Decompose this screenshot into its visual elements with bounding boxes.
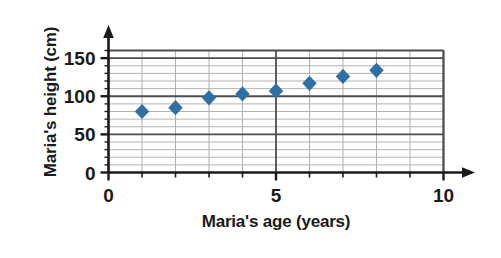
- data-point-marker: [168, 100, 182, 115]
- data-point-marker: [369, 63, 383, 78]
- data-point-marker: [202, 90, 216, 105]
- x-axis-line: [109, 167, 476, 178]
- x-axis-ticks: 0510: [103, 173, 454, 206]
- y-tick-label: 150: [64, 48, 96, 69]
- y-tick-label: 50: [74, 124, 95, 145]
- data-point-marker: [336, 69, 350, 84]
- y-tick-label: 100: [64, 86, 96, 107]
- y-tick-label: 0: [85, 163, 96, 184]
- y-axis-line: [103, 25, 114, 173]
- x-tick-label: 0: [103, 185, 114, 206]
- plot-area: 050100150 0510: [0, 0, 501, 258]
- y-axis-ticks: 050100150: [64, 48, 109, 183]
- x-tick-label: 5: [271, 185, 282, 206]
- data-point-marker: [135, 104, 149, 119]
- scatter-plot-figure: Maria's height (cm) Maria's age (years) …: [0, 0, 501, 258]
- data-point-series: [135, 63, 384, 119]
- x-tick-label: 10: [433, 185, 454, 206]
